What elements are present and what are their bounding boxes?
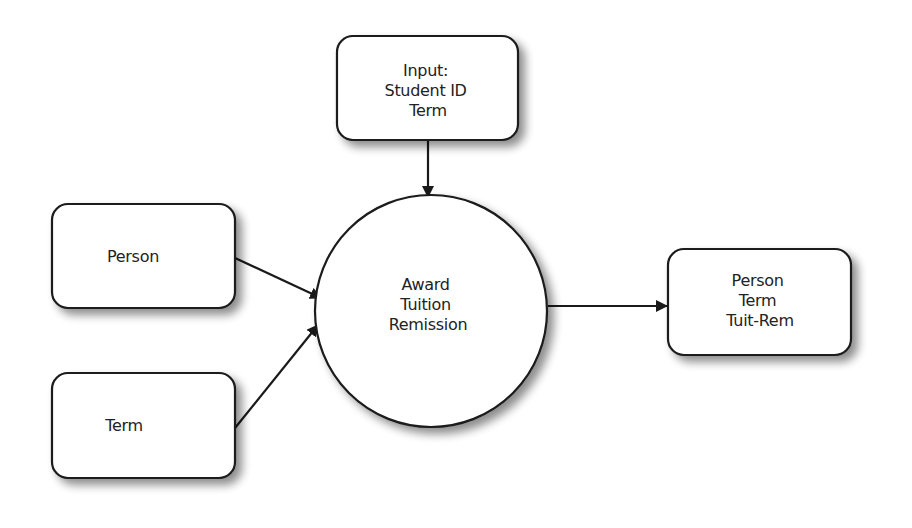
edge-term-to-process <box>235 325 318 428</box>
edge-person-to-process <box>235 258 321 298</box>
node-person-label: Person <box>107 247 159 266</box>
node-term <box>52 373 235 478</box>
data-flow-diagram: Input: Student ID Term Person Term Award… <box>0 0 912 528</box>
node-term-label: Term <box>104 416 143 435</box>
